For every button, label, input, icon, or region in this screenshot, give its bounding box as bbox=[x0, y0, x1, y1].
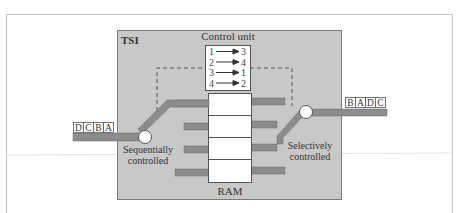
output-slot-1: B bbox=[347, 98, 353, 108]
ram-output-stub-3 bbox=[252, 144, 277, 151]
ram-input-stub-4 bbox=[175, 169, 209, 176]
ram-input-stub-2 bbox=[184, 123, 209, 130]
ram-slot-4 bbox=[209, 160, 252, 183]
tsi-title: TSI bbox=[121, 34, 139, 46]
output-slot-4: C bbox=[377, 98, 383, 108]
ram-output-stub-1 bbox=[252, 98, 285, 105]
mapping-from-4: 4 bbox=[209, 78, 214, 89]
input-line-bar bbox=[73, 133, 143, 141]
input-slot-4: A bbox=[105, 123, 112, 133]
input-slot-3: B bbox=[95, 123, 101, 133]
selective-label-line1: Selectively bbox=[288, 140, 332, 151]
mapping-from-1: 1 bbox=[209, 46, 214, 57]
ram-slot-2 bbox=[209, 116, 252, 138]
ram-column bbox=[209, 94, 252, 183]
output-slot-2: A bbox=[357, 98, 364, 108]
sequential-label-line2: controlled bbox=[128, 155, 169, 166]
control-unit-label: Control unit bbox=[201, 30, 254, 42]
selective-label-line2: controlled bbox=[290, 151, 331, 162]
selective-switch-pivot bbox=[300, 106, 313, 119]
sequential-switch-pivot bbox=[139, 131, 152, 144]
ram-output-stub-4 bbox=[252, 167, 285, 174]
ram-output-stub-2 bbox=[252, 121, 277, 128]
sequential-label-line1: Sequentially bbox=[123, 144, 173, 155]
ram-label: RAM bbox=[217, 185, 242, 197]
ram-slot-1 bbox=[209, 94, 252, 116]
tsi-diagram: TSI RAM Control unit 1 3 2 4 3 1 4 2 bbox=[0, 0, 458, 213]
mapping-to-4: 2 bbox=[241, 78, 246, 89]
input-slot-2: C bbox=[85, 123, 91, 133]
output-line-bar bbox=[308, 109, 387, 116]
ram-input-stub-3 bbox=[184, 146, 209, 153]
input-slot-1: D bbox=[75, 123, 82, 133]
output-frame-slots: B A D C bbox=[346, 98, 386, 109]
mapping-to-2: 4 bbox=[241, 57, 246, 68]
mapping-to-3: 1 bbox=[241, 67, 246, 78]
ram-slot-3 bbox=[209, 138, 252, 160]
mapping-from-3: 3 bbox=[209, 67, 214, 78]
mapping-from-2: 2 bbox=[209, 57, 214, 68]
output-slot-3: D bbox=[367, 98, 374, 108]
input-frame-slots: D C B A bbox=[74, 123, 114, 134]
mapping-to-1: 3 bbox=[241, 46, 246, 57]
